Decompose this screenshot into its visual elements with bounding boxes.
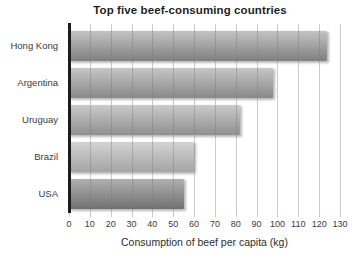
bar-argentina (69, 68, 273, 98)
gridline-20 (111, 24, 112, 217)
category-label-hong-kong: Hong Kong (0, 39, 58, 53)
gridline-30 (132, 24, 133, 217)
x-tick-label-30: 30 (127, 219, 137, 229)
gridline-10 (90, 24, 91, 217)
x-tick-label-60: 60 (189, 219, 199, 229)
chart-title: Top five beef-consuming countries (0, 4, 354, 16)
x-axis-title: Consumption of beef per capita (kg) (69, 236, 340, 248)
category-label-usa: USA (0, 187, 58, 201)
x-tick-label-110: 110 (291, 219, 305, 229)
gridline-50 (173, 24, 174, 217)
x-tick-label-100: 100 (270, 219, 285, 229)
x-tick-label-0: 0 (66, 219, 71, 229)
x-tick-label-50: 50 (168, 219, 178, 229)
x-tick-label-120: 120 (312, 219, 327, 229)
x-axis-ticks: 0102030405060708090100110120130 (0, 219, 354, 231)
gridline-80 (236, 24, 237, 217)
x-tick-label-70: 70 (210, 219, 220, 229)
gridline-70 (215, 24, 216, 217)
gridline-130 (340, 24, 341, 217)
bar-hong-kong (69, 31, 327, 61)
gridline-110 (298, 24, 299, 217)
x-tick-label-90: 90 (252, 219, 262, 229)
x-tick-label-80: 80 (231, 219, 241, 229)
plot-area (69, 24, 340, 217)
beef-consumption-bar-chart: Top five beef-consuming countries Hong K… (0, 0, 354, 263)
gridline-60 (194, 24, 195, 217)
gridline-90 (257, 24, 258, 217)
gridline-40 (152, 24, 153, 217)
y-axis-line (68, 23, 71, 213)
category-label-argentina: Argentina (0, 76, 58, 90)
x-tick-label-40: 40 (147, 219, 157, 229)
x-tick-label-20: 20 (106, 219, 116, 229)
gridline-120 (319, 24, 320, 217)
bar-usa (69, 179, 184, 209)
x-tick-label-10: 10 (85, 219, 95, 229)
category-label-brazil: Brazil (0, 150, 58, 164)
category-label-uruguay: Uruguay (0, 113, 58, 127)
x-tick-label-130: 130 (332, 219, 347, 229)
gridline-100 (277, 24, 278, 217)
